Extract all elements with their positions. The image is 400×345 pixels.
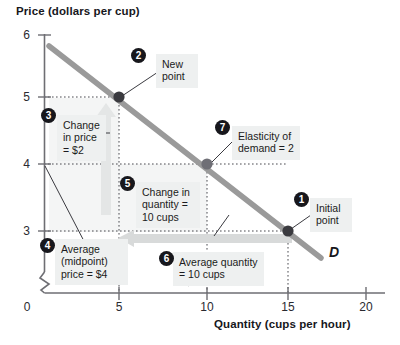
badge-3: 3 bbox=[41, 108, 56, 123]
xtick-label-0: 0 bbox=[16, 300, 38, 314]
point-initial[interactable] bbox=[282, 225, 293, 236]
xtick-label-20: 20 bbox=[355, 300, 377, 314]
callout-change-in-quantity: Change in quantity = 10 cups bbox=[136, 182, 200, 228]
xtick-label-5: 5 bbox=[108, 300, 130, 314]
quantity-change-arrow bbox=[118, 230, 292, 247]
ytick-label-5: 5 bbox=[14, 90, 30, 104]
badge-6: 6 bbox=[159, 251, 174, 266]
leader-initial-point bbox=[291, 215, 311, 229]
callout-new-point: New point bbox=[156, 54, 198, 88]
x-axis-title: Quantity (cups per hour) bbox=[214, 318, 351, 330]
xtick-label-10: 10 bbox=[196, 300, 218, 314]
demand-curve-figure: Price (dollars per cup) Quantity (cups p… bbox=[0, 0, 400, 345]
ytick-label-3: 3 bbox=[14, 224, 30, 238]
callout-change-in-price: Change in price = $2 bbox=[57, 115, 106, 161]
demand-curve-label: D bbox=[329, 244, 339, 260]
y-axis-break-icon bbox=[40, 272, 49, 293]
badge-2: 2 bbox=[131, 48, 146, 63]
ytick-label-6: 6 bbox=[14, 28, 30, 42]
ytick-label-4: 4 bbox=[14, 157, 30, 171]
y-axis-title: Price (dollars per cup) bbox=[16, 5, 140, 17]
point-new[interactable] bbox=[113, 91, 124, 102]
callout-average-price: Average (midpoint) price = $4 bbox=[55, 239, 128, 285]
callout-average-quantity: Average quantity = 10 cups bbox=[173, 252, 264, 286]
point-midpoint[interactable] bbox=[201, 158, 212, 169]
callout-initial-point: Initial point bbox=[310, 198, 352, 232]
leader-elasticity bbox=[211, 140, 234, 163]
badge-1: 1 bbox=[294, 192, 309, 207]
leader-new-point bbox=[122, 72, 158, 96]
badge-5: 5 bbox=[120, 176, 135, 191]
badge-4: 4 bbox=[40, 238, 55, 253]
xtick-label-15: 15 bbox=[277, 300, 299, 314]
callout-elasticity: Elasticity of demand = 2 bbox=[232, 126, 300, 160]
leader-change-quantity bbox=[214, 215, 229, 236]
badge-7: 7 bbox=[215, 120, 230, 135]
chart-canvas bbox=[0, 0, 400, 345]
